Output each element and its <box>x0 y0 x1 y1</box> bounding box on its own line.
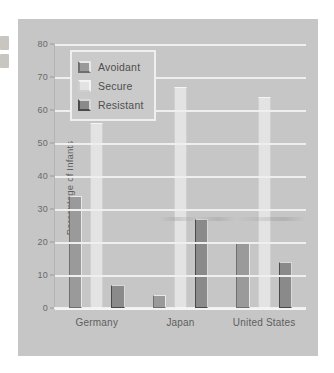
y-tick-label-60: 60 <box>38 105 48 115</box>
chart-figure: Percentage of Infants 01020304050607080G… <box>18 19 318 356</box>
y-tick-mark-10 <box>50 275 54 276</box>
chart-legend: Avoidant Secure Resistant <box>70 50 156 121</box>
resistant-swatch-icon <box>78 99 91 111</box>
bar-japan-avoidant <box>153 295 166 308</box>
legend-label-secure: Secure <box>98 80 132 92</box>
y-tick-mark-70 <box>50 77 54 78</box>
gridline-0 <box>55 308 306 310</box>
x-tick-label-japan: Japan <box>166 317 194 328</box>
y-tick-label-20: 20 <box>38 237 48 247</box>
bar-germany-resistant <box>111 285 124 308</box>
x-tick-label-united-states: United States <box>233 317 296 328</box>
page-edge-mark-bottom <box>0 54 9 68</box>
bar-germany-avoidant <box>69 196 82 308</box>
gridline-80 <box>55 44 306 46</box>
legend-label-avoidant: Avoidant <box>98 61 140 73</box>
y-tick-mark-0 <box>50 308 54 309</box>
y-tick-label-10: 10 <box>38 270 48 280</box>
y-tick-mark-40 <box>50 176 54 177</box>
y-tick-label-40: 40 <box>38 171 48 181</box>
y-tick-mark-20 <box>50 242 54 243</box>
avoidant-swatch-icon <box>78 61 91 73</box>
gridline-30 <box>55 209 306 211</box>
legend-item-avoidant[interactable]: Avoidant <box>78 57 144 76</box>
gridline-20 <box>55 242 306 244</box>
y-tick-mark-60 <box>50 110 54 111</box>
gridline-50 <box>55 143 306 145</box>
bar-germany-secure <box>90 123 103 308</box>
gridline-40 <box>55 176 306 178</box>
y-tick-label-30: 30 <box>38 204 48 214</box>
y-tick-label-0: 0 <box>43 303 48 313</box>
legend-item-resistant[interactable]: Resistant <box>78 95 144 114</box>
y-tick-mark-30 <box>50 209 54 210</box>
page-edge-mark-top <box>0 36 9 50</box>
y-tick-label-50: 50 <box>38 138 48 148</box>
bar-united-states-resistant <box>279 262 292 308</box>
legend-label-resistant: Resistant <box>98 99 144 111</box>
y-tick-label-70: 70 <box>38 72 48 82</box>
bar-japan-resistant <box>195 219 208 308</box>
secure-swatch-icon <box>78 80 91 92</box>
legend-item-secure[interactable]: Secure <box>78 76 144 95</box>
y-tick-mark-80 <box>50 44 54 45</box>
y-tick-label-80: 80 <box>38 39 48 49</box>
gridline-10 <box>55 275 306 277</box>
y-tick-mark-50 <box>50 143 54 144</box>
x-tick-label-germany: Germany <box>76 317 119 328</box>
